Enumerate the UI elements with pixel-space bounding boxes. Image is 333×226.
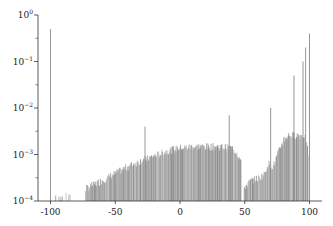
x-tick-label: -100: [40, 207, 60, 217]
y-tick-label: 100: [18, 8, 33, 20]
y-tick-label: 10−4: [13, 194, 33, 206]
y-tick-label: 10−1: [13, 55, 33, 67]
x-tick-label: 0: [177, 207, 183, 217]
histogram-bars: [51, 29, 310, 201]
y-tick-label: 10−3: [13, 148, 33, 160]
log-histogram-chart: 10010−110−210−310−4 -100-50050100: [0, 0, 333, 226]
y-tick-label: 10−2: [13, 101, 33, 113]
x-tick-label: 100: [301, 207, 318, 217]
x-axis-ticks: -100-50050100: [40, 201, 318, 217]
y-axis-ticks: 10010−110−210−310−4: [13, 8, 38, 206]
x-tick-label: 50: [239, 207, 251, 217]
x-tick-label: -50: [108, 207, 123, 217]
